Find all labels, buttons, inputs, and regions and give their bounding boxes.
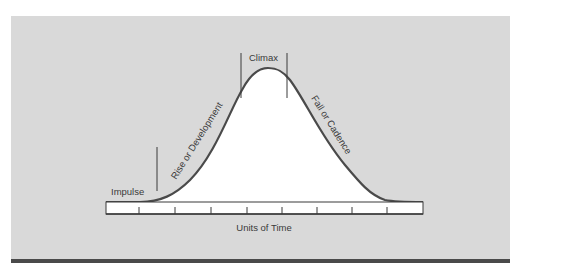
time-axis <box>106 202 423 214</box>
bottom-divider <box>11 259 510 263</box>
x-axis-label: Units of Time <box>236 222 291 233</box>
climax-label: Climax <box>249 52 278 63</box>
impulse-label: Impulse <box>111 186 144 197</box>
dramatic-arc-diagram: Impulse Climax Rise or Development Fall … <box>0 0 575 277</box>
curve-fill <box>106 68 423 214</box>
